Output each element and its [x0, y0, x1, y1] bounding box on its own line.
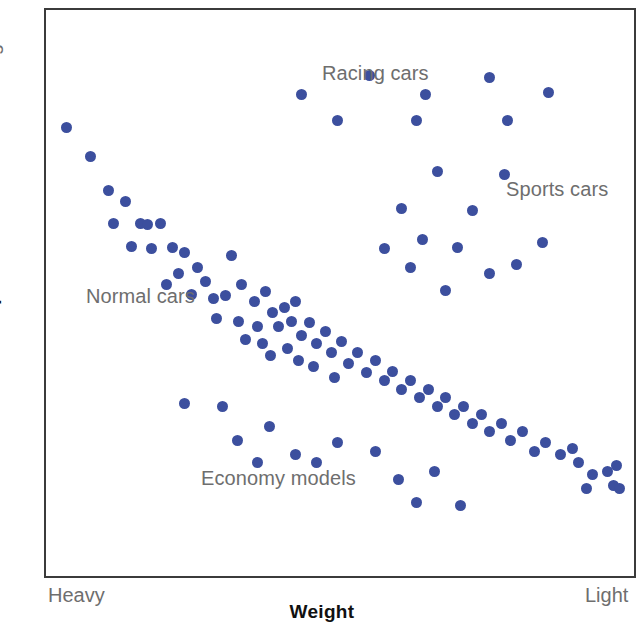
data-point [432, 401, 443, 412]
data-point [455, 500, 466, 511]
data-point [543, 87, 554, 98]
data-point [332, 115, 343, 126]
data-point [440, 285, 451, 296]
data-point [282, 343, 293, 354]
data-point [173, 268, 184, 279]
data-point [208, 293, 219, 304]
x-axis-title-label: Weight [0, 601, 644, 623]
data-point [296, 330, 307, 341]
data-point [567, 443, 578, 454]
data-point [326, 347, 337, 358]
data-point [540, 437, 551, 448]
annotation-normal-cars: Normal cars [86, 285, 195, 308]
data-point [352, 347, 363, 358]
data-point [142, 219, 153, 230]
data-point [414, 392, 425, 403]
data-point [240, 334, 251, 345]
data-point [296, 89, 307, 100]
data-point [467, 205, 478, 216]
data-point [61, 122, 72, 133]
data-point [573, 457, 584, 468]
annotation-economy-models: Economy models [201, 467, 356, 490]
data-point [361, 367, 372, 378]
y-axis-tick-high: High [4, 14, 34, 74]
data-point [393, 474, 404, 485]
data-point [226, 250, 237, 261]
data-point [405, 262, 416, 273]
data-point [217, 401, 228, 412]
y-axis-tick-high-label: High [0, 33, 4, 74]
data-point [336, 336, 347, 347]
data-point [290, 296, 301, 307]
data-point [476, 409, 487, 420]
data-point [211, 313, 222, 324]
data-point [192, 262, 203, 273]
data-point [260, 286, 271, 297]
y-axis-tick-low: Low [4, 510, 34, 570]
annotation-racing-cars: Racing cars [322, 62, 429, 85]
data-point [252, 321, 263, 332]
data-point [396, 384, 407, 395]
annotation-sports-cars: Sports cars [506, 178, 608, 201]
data-point [484, 72, 495, 83]
data-point [126, 241, 137, 252]
data-point [587, 469, 598, 480]
data-point [411, 115, 422, 126]
data-point [405, 375, 416, 386]
data-point [257, 338, 268, 349]
data-point [290, 449, 301, 460]
data-point [529, 446, 540, 457]
data-point [267, 307, 278, 318]
data-point [236, 279, 247, 290]
data-point [537, 237, 548, 248]
data-point [232, 435, 243, 446]
data-point [581, 483, 592, 494]
data-point [308, 361, 319, 372]
data-point [452, 242, 463, 253]
data-point [265, 350, 276, 361]
data-point [264, 421, 275, 432]
data-point [85, 151, 96, 162]
y-axis-title: Horsepower [2, 210, 32, 360]
data-point [370, 446, 381, 457]
data-point [517, 426, 528, 437]
data-point [396, 203, 407, 214]
data-point [411, 497, 422, 508]
data-point [146, 243, 157, 254]
data-point [387, 366, 398, 377]
data-point [502, 115, 513, 126]
data-point [484, 426, 495, 437]
data-point [423, 384, 434, 395]
data-point [120, 196, 131, 207]
data-point [233, 316, 244, 327]
data-point [332, 437, 343, 448]
data-point [611, 460, 622, 471]
data-point [220, 290, 231, 301]
data-point [484, 268, 495, 279]
data-point [343, 358, 354, 369]
data-point [429, 466, 440, 477]
data-point [505, 435, 516, 446]
data-point [555, 449, 566, 460]
y-axis-title-label: Horsepower [0, 247, 2, 360]
data-point [379, 375, 390, 386]
data-point [311, 338, 322, 349]
data-point [458, 401, 469, 412]
data-point [432, 166, 443, 177]
data-point [304, 317, 315, 328]
data-point [273, 321, 284, 332]
data-point [440, 392, 451, 403]
data-point [614, 483, 625, 494]
data-point [179, 398, 190, 409]
data-point [449, 409, 460, 420]
data-point [103, 185, 114, 196]
data-point [370, 355, 381, 366]
data-point [279, 302, 290, 313]
data-point [420, 89, 431, 100]
data-point [167, 242, 178, 253]
data-point [329, 372, 340, 383]
data-point [467, 418, 478, 429]
data-point [200, 276, 211, 287]
data-point [417, 234, 428, 245]
data-point [379, 243, 390, 254]
